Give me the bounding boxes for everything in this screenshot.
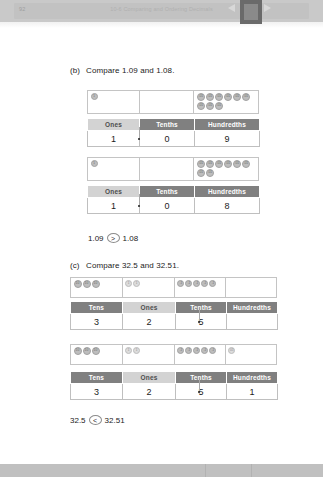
header-hundredths: Hundredths [195, 186, 260, 198]
problem-c-text: Compare 32.5 and 32.51. [86, 261, 179, 270]
place-value-disk: 10 [74, 347, 82, 355]
place-value-disk: 1 [133, 280, 140, 287]
disk-cell-tens: 10 10 10 [71, 345, 123, 364]
header-tens: Tens [71, 302, 123, 314]
value-hundredths: 8 [195, 198, 260, 214]
table-header-row: Tens Ones Tenths Hundredths [71, 302, 278, 314]
place-value-disk: .01 [224, 93, 232, 101]
place-value-disk: .01 [197, 93, 205, 101]
disk-cell-tens: 10 10 10 [71, 278, 123, 297]
problem-c-answer: 32.5 < 32.51 [70, 415, 125, 425]
value-ones: 1 [88, 198, 140, 214]
problem-c-label: (c) [70, 261, 86, 270]
place-value-disk: 10 [74, 280, 82, 288]
header-tenths: Tenths [176, 302, 227, 314]
next-page-arrow-icon[interactable] [264, 4, 271, 12]
value-ones: 1 [88, 131, 140, 147]
answer-right-value: 32.51 [105, 416, 125, 425]
value-tenths: 5 [176, 314, 227, 330]
problem-b-model-1-disk-strip: 1 .01 .01 .01 .01 .01 .01 .01 .01 .01 [87, 90, 259, 114]
place-value-disk: .1 [193, 280, 200, 287]
value-ones: 2 [123, 384, 176, 400]
table-header-row: Ones Tenths Hundredths [88, 119, 260, 131]
place-value-disk: 10 [92, 280, 100, 288]
header-ones: Ones [123, 302, 176, 314]
header-hundredths: Hundredths [227, 302, 278, 314]
comparison-operator-oval[interactable]: < [89, 415, 102, 425]
previous-page-arrow-icon[interactable] [228, 4, 235, 12]
problem-b-model-1-place-value-table: Ones Tenths Hundredths 1 0 9 [87, 118, 260, 147]
page-scroll-thumb-inner [244, 4, 258, 20]
header-ones: Ones [88, 119, 140, 131]
disk-cell-tenths: .1 .1 .1 .1 .1 [175, 278, 226, 297]
disk-cell-ones: 1 [88, 91, 140, 113]
table-row: 1 0 9 [88, 131, 260, 147]
place-value-disk: .01 [197, 169, 205, 177]
place-value-disk: .01 [206, 169, 214, 177]
place-value-disk: .1 [209, 280, 216, 287]
problem-b-label: (b) [70, 66, 86, 75]
value-hundredths [227, 314, 278, 330]
table-header-row: Tens Ones Tenths Hundredths [71, 372, 278, 384]
table-row: 1 0 8 [88, 198, 260, 214]
disk-cell-ones: 1 1 [123, 345, 175, 364]
problem-b-model-2-disk-strip: 1 .01 .01 .01 .01 .01 .01 .01 .01 [87, 157, 259, 181]
place-value-disk: .01 [233, 160, 241, 168]
place-value-disk: .01 [206, 102, 214, 110]
place-value-disk: .1 [185, 280, 192, 287]
place-value-disk: .1 [201, 280, 208, 287]
place-value-disk: .01 [228, 347, 235, 354]
answer-left-value: 1.09 [88, 234, 104, 243]
place-value-disk: .1 [185, 347, 192, 354]
bottom-bar-divider [205, 464, 206, 477]
place-value-disk: .01 [197, 160, 205, 168]
answer-right-value: 1.08 [123, 234, 139, 243]
disk-cell-tenths: .1 .1 .1 .1 .1 [175, 345, 226, 364]
bottom-bar-divider [251, 464, 252, 477]
disk-cell-tenths [140, 91, 195, 113]
header-ones: Ones [88, 186, 140, 198]
header-tenths: Tenths [176, 372, 227, 384]
place-value-disk: 10 [83, 280, 91, 288]
header-hundredths: Hundredths [195, 119, 260, 131]
problem-b-answer: 1.09 > 1.08 [88, 233, 138, 243]
place-value-disk: .1 [209, 347, 216, 354]
disk-cell-ones: 1 1 [123, 278, 175, 297]
place-value-disk: .01 [215, 102, 223, 110]
place-value-disk: 1 [91, 93, 98, 100]
value-tenths: 0 [140, 131, 195, 147]
value-tens: 3 [71, 314, 123, 330]
problem-c-prompt: (c)Compare 32.5 and 32.51. [70, 261, 179, 270]
value-tenths: 0 [140, 198, 195, 214]
problem-c-model-1-disk-strip: 10 10 10 1 1 .1 .1 .1 .1 .1 [70, 277, 277, 298]
problem-c-model-2-place-value-table: Tens Ones Tenths Hundredths 3 2 5 1 [70, 371, 278, 400]
answer-left-value: 32.5 [70, 416, 86, 425]
place-value-disk: .1 [201, 347, 208, 354]
table-row: 3 2 5 1 [71, 384, 278, 400]
problem-b-prompt: (b)Compare 1.09 and 1.08. [70, 66, 174, 75]
place-value-disk: .01 [224, 160, 232, 168]
place-value-disk: 1 [125, 280, 132, 287]
place-value-disk: 1 [133, 347, 140, 354]
disk-cell-hundredths: .01 .01 .01 .01 .01 .01 .01 .01 .01 [194, 91, 258, 113]
header-ones: Ones [123, 372, 176, 384]
place-value-disk: .01 [197, 102, 205, 110]
table-row: 3 2 5 [71, 314, 278, 330]
page-scroll-thumb[interactable] [240, 0, 262, 24]
value-tens: 3 [71, 384, 123, 400]
place-value-disk: .01 [242, 160, 250, 168]
table-header-row: Ones Tenths Hundredths [88, 186, 260, 198]
place-value-disk: .1 [193, 347, 200, 354]
place-value-disk: 1 [125, 347, 132, 354]
value-tenths: 5 [176, 384, 227, 400]
disk-cell-hundredths: .01 [226, 345, 277, 364]
chapter-title: 10-6 Comparing and Ordering Decimals [0, 6, 323, 12]
decimal-tick [199, 310, 200, 321]
place-value-disk: .01 [233, 93, 241, 101]
comparison-operator-oval[interactable]: > [107, 233, 120, 243]
header-tenths: Tenths [140, 119, 195, 131]
decimal-tick [199, 380, 200, 391]
disk-cell-ones: 1 [88, 158, 140, 180]
place-value-disk: .01 [215, 160, 223, 168]
disk-cell-tenths [140, 158, 195, 180]
